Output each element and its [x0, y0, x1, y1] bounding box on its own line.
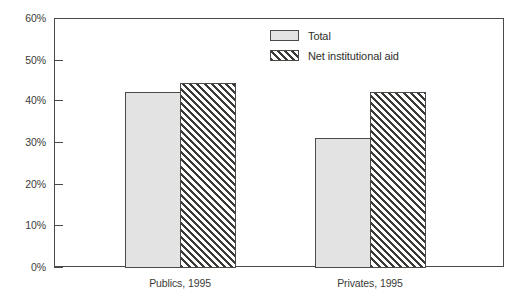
y-tick-60	[54, 18, 63, 19]
legend-label-total: Total	[308, 30, 331, 42]
y-axis-label-30: 30%	[0, 136, 46, 148]
y-axis-label-60: 60%	[0, 12, 46, 24]
y-axis-label-20: 20%	[0, 178, 46, 190]
y-tick-20	[54, 184, 63, 185]
y-axis-label-40: 40%	[0, 94, 46, 106]
x-axis-label-privates: Privates, 1995	[295, 277, 445, 289]
y-tick-40	[54, 100, 63, 101]
bar-privates-total	[315, 138, 371, 268]
y-tick-0	[54, 267, 63, 268]
legend-swatch-net-institutional-aid-icon	[270, 50, 299, 61]
bar-privates-net-institutional-aid	[370, 92, 426, 268]
chart-legend: Total Net institutional aid	[270, 27, 399, 67]
y-tick-50	[54, 60, 63, 61]
legend-label-net-institutional-aid: Net institutional aid	[308, 50, 399, 62]
x-axis-label-publics: Publics, 1995	[105, 277, 255, 289]
y-axis-label-0: 0%	[0, 261, 46, 273]
y-axis-label-50: 50%	[0, 54, 46, 66]
y-tick-30	[54, 142, 63, 143]
legend-swatch-total-icon	[270, 30, 299, 41]
bar-publics-total	[125, 92, 181, 268]
y-axis-label-10: 10%	[0, 219, 46, 231]
y-tick-10	[54, 225, 63, 226]
legend-item-total: Total	[270, 27, 399, 44]
bar-publics-net-institutional-aid	[180, 83, 236, 268]
legend-item-net-institutional-aid: Net institutional aid	[270, 47, 399, 64]
bar-chart: 60% 50% 40% 30% 20% 10% 0% Publics, 1995…	[0, 0, 525, 306]
